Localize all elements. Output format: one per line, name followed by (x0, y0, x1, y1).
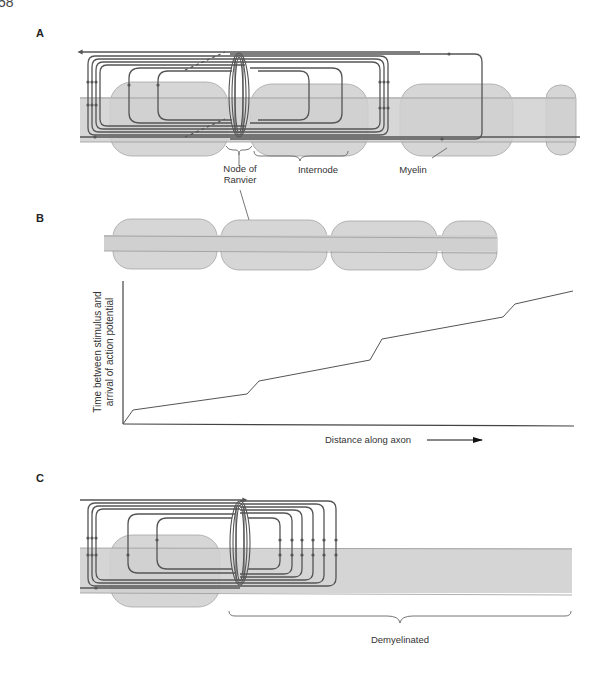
internode-label: Internode (283, 164, 353, 175)
y-label-line1: Time between stimulus and (92, 272, 104, 432)
myelin-label: Myelin (388, 164, 438, 175)
node-of-ranvier-label: Node of Ranvier (210, 163, 270, 185)
panel-a-braces (226, 146, 447, 230)
node-label-line2: Ranvier (224, 174, 257, 185)
demyelinated-brace (229, 611, 571, 623)
panel-b-graph-line (123, 291, 573, 424)
demyelinated-label: Demyelinated (360, 634, 440, 645)
graph-x-axis-label: Distance along axon (325, 434, 435, 445)
panel-b-graph-axes (123, 281, 574, 426)
diagram-canvas (0, 0, 605, 678)
panel-c-axon (80, 535, 572, 607)
panel-a-axon (80, 82, 576, 156)
y-label-line2: arrival of action potential (104, 272, 116, 432)
graph-y-axis-label: Time between stimulus and arrival of act… (92, 272, 116, 432)
panel-b-axon (104, 219, 497, 270)
node-label-line1: Node of (223, 163, 256, 174)
